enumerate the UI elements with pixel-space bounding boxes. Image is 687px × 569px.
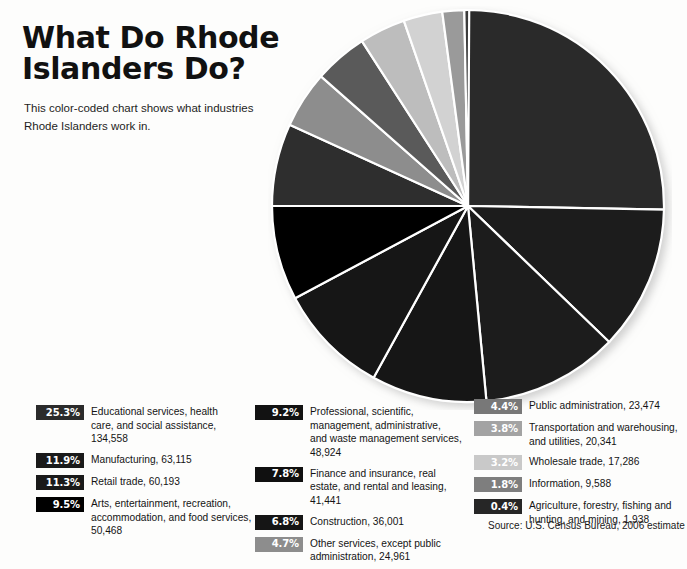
legend-label: Arts, entertainment, recreation, accommo… — [91, 496, 251, 538]
legend-item[interactable]: 4.7%Other services, except public admini… — [255, 536, 477, 564]
legend-percent: 11.3% — [46, 478, 80, 488]
legend-swatch: 11.3% — [36, 475, 84, 490]
legend-percent: 11.9% — [46, 456, 80, 466]
legend-swatch: 9.2% — [255, 405, 303, 420]
legend-swatch: 7.8% — [255, 467, 303, 482]
legend-item[interactable]: 11.9%Manufacturing, 63,115 — [36, 452, 256, 468]
legend-label: Retail trade, 60,193 — [91, 474, 180, 489]
legend-percent: 3.8% — [491, 424, 518, 434]
legend-item[interactable]: 9.2%Professional, scientific, management… — [255, 404, 477, 460]
legend-label: Professional, scientific, management, ad… — [310, 404, 462, 460]
legend-label: Construction, 36,001 — [310, 514, 404, 529]
legend-percent: 3.2% — [491, 458, 518, 468]
legend-swatch: 3.8% — [474, 421, 522, 436]
legend-column-2: 9.2%Professional, scientific, management… — [255, 404, 477, 569]
legend-label: Finance and insurance, real estate, and … — [310, 466, 447, 508]
headline-block: What Do Rhode Islanders Do? This color-c… — [22, 22, 292, 136]
page-title: What Do Rhode Islanders Do? — [22, 22, 292, 84]
legend-percent: 4.4% — [491, 402, 518, 412]
legend-percent: 9.2% — [272, 408, 299, 418]
pie-slice-group — [272, 10, 664, 402]
legend-swatch: 4.7% — [255, 537, 303, 552]
legend-label: Transportation and warehousing, and util… — [529, 420, 678, 448]
legend-swatch: 1.8% — [474, 477, 522, 492]
legend-label: Manufacturing, 63,115 — [91, 452, 192, 467]
legend-percent: 25.3% — [46, 408, 80, 418]
legend-item[interactable]: 4.4%Public administration, 23,474 — [474, 398, 686, 414]
page-subtitle: This color-coded chart shows what indust… — [24, 100, 282, 136]
legend-swatch: 11.9% — [36, 453, 84, 468]
legend-label: Public administration, 23,474 — [529, 398, 660, 413]
pie-chart-svg — [268, 6, 672, 410]
legend-item[interactable]: 7.8%Finance and insurance, real estate, … — [255, 466, 477, 508]
legend-swatch: 25.3% — [36, 405, 84, 420]
legend-column-3: 4.4%Public administration, 23,4743.8%Tra… — [474, 398, 686, 533]
legend-swatch: 0.4% — [474, 499, 522, 514]
legend-item[interactable]: 11.3%Retail trade, 60,193 — [36, 474, 256, 490]
legend-item[interactable]: 25.3%Educational services, health care, … — [36, 404, 256, 446]
legend-percent: 1.8% — [491, 480, 518, 490]
legend-label: Educational services, health care, and s… — [91, 404, 218, 446]
legend-percent: 9.5% — [53, 500, 80, 510]
legend-label: Information, 9,588 — [529, 476, 611, 491]
legend-label: Other services, except public administra… — [310, 536, 441, 564]
legend-item[interactable]: 1.8%Information, 9,588 — [474, 476, 686, 492]
pie-chart — [268, 6, 672, 410]
legend-percent: 0.4% — [491, 502, 518, 512]
legend-column-1: 25.3%Educational services, health care, … — [36, 404, 256, 544]
legend-percent: 7.8% — [272, 469, 299, 479]
legend-item[interactable]: 3.8%Transportation and warehousing, and … — [474, 420, 686, 448]
legend-item[interactable]: 6.8%Construction, 36,001 — [255, 514, 477, 530]
legend-item[interactable]: 9.5%Arts, entertainment, recreation, acc… — [36, 496, 256, 538]
legend-percent: 4.7% — [272, 539, 299, 549]
legend-swatch: 4.4% — [474, 399, 522, 414]
legend-item[interactable]: 3.2%Wholesale trade, 17,286 — [474, 454, 686, 470]
legend-swatch: 9.5% — [36, 497, 84, 512]
legend-label: Wholesale trade, 17,286 — [529, 454, 639, 469]
source-note: Source: U.S. Census Bureau, 2006 estimat… — [488, 520, 685, 531]
pie-slice[interactable] — [468, 10, 664, 210]
legend-swatch: 3.2% — [474, 455, 522, 470]
legend-swatch: 6.8% — [255, 515, 303, 530]
legend-percent: 6.8% — [272, 517, 299, 527]
